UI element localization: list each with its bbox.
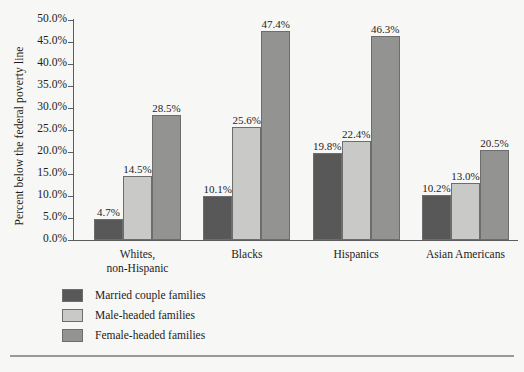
plot-area: 0.0%5.0%10.0%15.0%20.0%25.0%30.0%35.0%40… — [74, 20, 517, 240]
y-axis-tick-label: 30.0% — [37, 100, 67, 112]
y-axis-tick-mark — [68, 108, 74, 109]
y-axis-tick-mark — [68, 218, 74, 219]
y-axis-tick-label: 10.0% — [37, 188, 67, 200]
y-axis-tick-mark — [68, 42, 74, 43]
legend-item[interactable]: Married couple families — [62, 286, 206, 304]
y-axis-tick-mark — [68, 174, 74, 175]
y-axis-tick-label: 25.0% — [37, 122, 67, 134]
legend-color-swatch — [62, 329, 83, 342]
bar-group: 10.1%25.6%47.4%Blacks — [203, 20, 290, 240]
x-axis-category-label: Hispanics — [333, 247, 378, 261]
x-axis-category-label: Whites,non-Hispanic — [107, 247, 169, 275]
bar-group: 10.2%13.0%20.5%Asian Americans — [422, 20, 509, 240]
y-axis-tick-label: 35.0% — [37, 78, 67, 90]
y-axis-tick-label: 40.0% — [37, 56, 67, 68]
bar-value-label: 13.0% — [451, 170, 479, 182]
bar-value-label: 46.3% — [371, 23, 399, 35]
legend-color-swatch — [62, 289, 83, 302]
bar[interactable]: 10.2% — [422, 195, 451, 240]
bar[interactable]: 25.6% — [232, 127, 261, 240]
y-axis-tick-label: 20.0% — [37, 144, 67, 156]
chart-legend: Married couple familiesMale-headed famil… — [62, 286, 206, 346]
y-axis-tick-mark — [68, 240, 74, 241]
x-axis-category-label: Blacks — [231, 247, 262, 261]
bar[interactable]: 22.4% — [342, 141, 371, 240]
bar-group: 19.8%22.4%46.3%Hispanics — [313, 20, 400, 240]
bar[interactable]: 4.7% — [94, 219, 123, 240]
y-axis-title: Percent below the federal poverty line — [8, 16, 30, 256]
legend-item-label: Married couple families — [95, 289, 206, 301]
bar[interactable]: 14.5% — [123, 176, 152, 240]
horizontal-rule — [10, 355, 514, 357]
x-axis-spine — [73, 240, 518, 241]
bar-value-label: 10.2% — [422, 182, 450, 194]
bar-value-label: 28.5% — [152, 102, 180, 114]
y-axis-tick-label: 50.0% — [37, 12, 67, 24]
bar[interactable]: 10.1% — [203, 196, 232, 240]
x-axis-category-label: Asian Americans — [426, 247, 505, 261]
bar-value-label: 22.4% — [342, 128, 370, 140]
bar-chart-figure: Percent below the federal poverty line 0… — [0, 0, 524, 372]
bar[interactable]: 13.0% — [451, 183, 480, 240]
bar-value-label: 47.4% — [262, 18, 290, 30]
y-axis-tick-label: 15.0% — [37, 166, 67, 178]
y-axis-tick-mark — [68, 130, 74, 131]
legend-item[interactable]: Female-headed families — [62, 326, 206, 344]
y-axis-tick-mark — [68, 152, 74, 153]
bar[interactable]: 47.4% — [261, 31, 290, 240]
legend-color-swatch — [62, 309, 83, 322]
y-axis-tick-mark — [68, 64, 74, 65]
y-axis-tick-mark — [68, 20, 74, 21]
y-axis-tick-label: 45.0% — [37, 34, 67, 46]
y-axis-tick-mark — [68, 196, 74, 197]
bar[interactable]: 28.5% — [152, 115, 181, 240]
y-axis-tick-label: 0.0% — [43, 232, 67, 244]
legend-item-label: Female-headed families — [95, 329, 205, 341]
bar-value-label: 14.5% — [123, 163, 151, 175]
bar-value-label: 20.5% — [480, 137, 508, 149]
legend-item[interactable]: Male-headed families — [62, 306, 206, 324]
bar[interactable]: 19.8% — [313, 153, 342, 240]
bar-value-label: 19.8% — [313, 140, 341, 152]
legend-item-label: Male-headed families — [95, 309, 195, 321]
bar[interactable]: 20.5% — [480, 150, 509, 240]
bar-value-label: 4.7% — [97, 206, 120, 218]
bar[interactable]: 46.3% — [371, 36, 400, 240]
y-axis-tick-label: 5.0% — [43, 210, 67, 222]
bar-value-label: 10.1% — [204, 183, 232, 195]
y-axis-tick-mark — [68, 86, 74, 87]
bar-value-label: 25.6% — [233, 114, 261, 126]
bar-group: 4.7%14.5%28.5%Whites,non-Hispanic — [94, 20, 181, 240]
